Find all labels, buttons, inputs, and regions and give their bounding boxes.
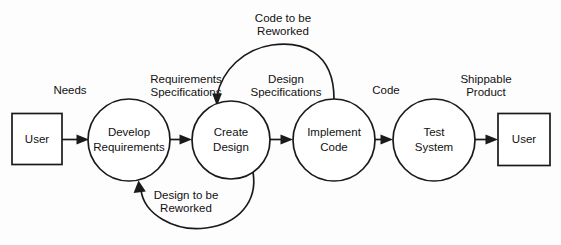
node-label-test-system-line2: System <box>415 141 453 153</box>
node-label-implement-code-line2: Code <box>320 141 348 153</box>
arrowhead-design-specifications <box>281 134 294 144</box>
edge-label-design-to-be-reworked-line1: Design to be <box>154 189 219 201</box>
edge-label-shippable-product-line1: Shippable <box>460 73 511 85</box>
edge-label-requirements-specifications-line1: Requirements <box>150 73 222 85</box>
edge-label-code-to-be-reworked-line1: Code to be <box>255 12 311 24</box>
edge-label-requirements-specifications-line2: Specifications <box>151 86 222 98</box>
edge-label-code: Code <box>372 84 400 96</box>
edge-label-design-to-be-reworked-line2: Reworked <box>160 202 212 214</box>
node-label-test-system-line1: Test <box>423 126 445 138</box>
edge-label-design-specifications-line1: Design <box>268 73 304 85</box>
node-implement-code[interactable] <box>293 99 375 181</box>
edge-label-needs: Needs <box>53 84 86 96</box>
node-label-develop-requirements-line2: Requirements <box>93 141 165 153</box>
edge-label-code-to-be-reworked-line2: Reworked <box>257 25 309 37</box>
arrowhead-shippable-product <box>486 134 499 144</box>
data-flow-diagram: Needs Requirements Specifications Design… <box>0 0 561 245</box>
node-label-implement-code-line1: Implement <box>307 126 361 138</box>
arrowhead-requirements-specifications <box>180 134 193 144</box>
node-create-design[interactable] <box>192 101 270 179</box>
arrowhead-needs <box>77 134 90 144</box>
node-test-system[interactable] <box>393 99 475 181</box>
node-label-create-design-line1: Create <box>214 126 249 138</box>
arrowhead-code <box>381 134 394 144</box>
edge-label-design-specifications-line2: Specifications <box>251 86 322 98</box>
arrowhead-design-to-be-reworked <box>134 181 146 193</box>
node-develop-requirements[interactable] <box>88 99 170 181</box>
node-label-create-design-line2: Design <box>213 141 249 153</box>
node-label-user-source: User <box>25 133 49 145</box>
node-label-user-sink: User <box>512 133 536 145</box>
diagram-canvas: Needs Requirements Specifications Design… <box>0 0 561 245</box>
node-label-develop-requirements-line1: Develop <box>108 126 150 138</box>
edge-label-shippable-product-line2: Product <box>466 86 506 98</box>
